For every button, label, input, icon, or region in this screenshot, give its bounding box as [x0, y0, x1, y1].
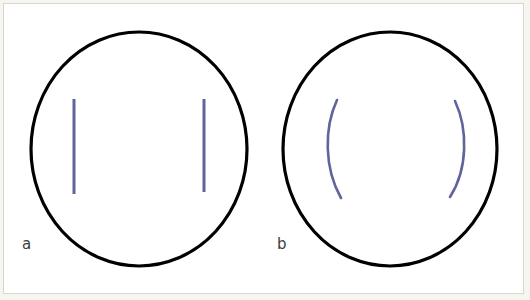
panel-b-left-arc — [328, 100, 341, 198]
figure-canvas — [0, 0, 530, 300]
panel-b — [283, 32, 497, 266]
figure-root: a b — [0, 0, 530, 300]
panel-a-label: a — [22, 237, 31, 252]
panel-a — [31, 32, 247, 266]
panel-b-right-arc — [450, 101, 464, 197]
panel-b-label: b — [277, 237, 287, 252]
panel-a-circle-outline — [31, 32, 247, 266]
